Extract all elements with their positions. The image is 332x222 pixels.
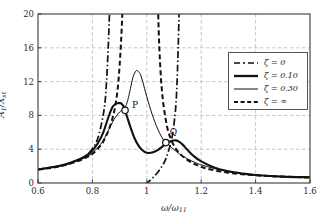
legend-item: ζ = 0.10 bbox=[233, 69, 303, 82]
label-point-q: Q bbox=[170, 127, 177, 137]
x-tick-label: 1 bbox=[144, 186, 149, 196]
legend-item: ζ = ∞ bbox=[233, 95, 303, 108]
marker-point-p bbox=[122, 107, 128, 113]
y-axis-title-numerator-subscript: 1 bbox=[0, 107, 8, 111]
y-axis-title-denominator-subscript: st bbox=[0, 92, 8, 98]
figure-container: 0.60.811.21.41.6 048121620 ω/ω11 A1/Xst … bbox=[0, 0, 332, 222]
chart-legend: ζ = 0 ζ = 0.10 ζ = 0.30 ζ = ∞ bbox=[228, 52, 308, 110]
y-tick-label: 16 bbox=[18, 43, 34, 53]
legend-item: ζ = 0 bbox=[233, 56, 303, 69]
y-axis-title: A1/Xst bbox=[0, 92, 8, 118]
legend-key-solid-thick-icon bbox=[233, 71, 259, 81]
legend-label-zeta-010: ζ = 0.10 bbox=[264, 71, 298, 80]
x-tick-label: 1.6 bbox=[303, 186, 317, 196]
label-point-p: P bbox=[132, 100, 138, 110]
y-axis-title-slash: / bbox=[0, 104, 6, 107]
y-axis-title-numerator: A bbox=[0, 111, 6, 118]
x-tick-label: 1.2 bbox=[194, 186, 208, 196]
figure-background bbox=[0, 0, 332, 222]
y-tick-label: 12 bbox=[18, 77, 34, 87]
x-axis-title-denominator: ω bbox=[171, 203, 178, 213]
y-tick-label: 20 bbox=[18, 9, 34, 19]
y-tick-label: 8 bbox=[18, 110, 34, 120]
y-axis-title-denominator: X bbox=[0, 98, 6, 104]
chart-canvas bbox=[0, 0, 332, 222]
legend-label-zeta-inf: ζ = ∞ bbox=[264, 97, 287, 106]
marker-point-q bbox=[163, 139, 169, 145]
legend-key-dash-dot-icon bbox=[233, 58, 259, 68]
x-tick-label: 1.4 bbox=[249, 186, 263, 196]
y-tick-label: 0 bbox=[18, 178, 34, 188]
y-tick-label: 4 bbox=[18, 144, 34, 154]
x-tick-label: 0.8 bbox=[86, 186, 100, 196]
legend-label-zeta-030: ζ = 0.30 bbox=[264, 84, 298, 93]
legend-item: ζ = 0.30 bbox=[233, 82, 303, 95]
x-axis-title-subscript: 11 bbox=[179, 206, 187, 214]
x-axis-title: ω/ω11 bbox=[161, 203, 187, 214]
legend-key-dashed-icon bbox=[233, 97, 259, 107]
legend-label-zeta-0: ζ = 0 bbox=[264, 58, 285, 67]
legend-key-solid-thin-icon bbox=[233, 84, 259, 94]
